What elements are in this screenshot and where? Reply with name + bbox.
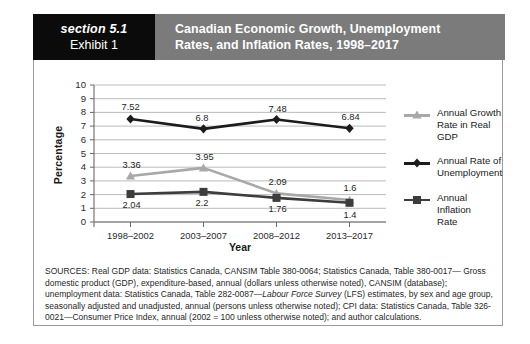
data-point-label: 7.48 <box>269 104 287 114</box>
data-point-label: 1.4 <box>344 210 357 220</box>
sources-line-1: SOURCES: Real GDP data: Statistics Canad… <box>45 266 461 276</box>
data-point-label: 6.84 <box>342 112 360 122</box>
legend-item: Annual Inflation Rate <box>404 192 502 227</box>
data-point-label: 6.8 <box>196 113 209 123</box>
data-point-label: 3.36 <box>123 160 141 170</box>
exhibit-title: Canadian Economic Growth, Unemployment R… <box>155 14 505 60</box>
legend-label: Annual Rate of Unemployment <box>437 155 502 179</box>
legend-triangle-icon <box>404 108 430 122</box>
legend-label: Annual Inflation Rate <box>437 192 502 227</box>
data-point-label: 2.04 <box>123 200 141 210</box>
chart: Percentage 109876543210 1998–20022003–20… <box>34 61 502 261</box>
legend-item: Annual Rate of Unemployment <box>404 155 502 179</box>
sources-line-3-italic: Labour Force Survey <box>262 289 341 299</box>
exhibit-figure: section 5.1 Exhibit 1 Canadian Economic … <box>0 0 530 344</box>
data-point-label: 2.2 <box>196 198 209 208</box>
exhibit-number: Exhibit 1 <box>70 37 118 54</box>
legend-item: Annual Growth Rate in Real GDP <box>404 107 502 142</box>
data-point-label: 1.6 <box>344 183 357 193</box>
data-point-label: 1.76 <box>269 204 287 214</box>
legend-diamond-icon <box>404 156 430 170</box>
sources-note: SOURCES: Real GDP data: Statistics Canad… <box>45 266 495 324</box>
section-block: section 5.1 Exhibit 1 <box>33 14 155 60</box>
section-number: section 5.1 <box>61 21 128 37</box>
data-point-label: 7.52 <box>122 102 140 112</box>
legend-label: Annual Growth Rate in Real GDP <box>437 107 502 142</box>
sources-line-3c: (LFS) estimates, by sex and age <box>342 289 467 299</box>
legend-square-icon <box>404 193 430 207</box>
exhibit-title-line-2: Rates, and Inflation Rates, 1998–2017 <box>175 37 505 54</box>
sources-line-3a: unemployment data: Statistics Canada, Ta… <box>45 289 262 299</box>
chart-legend: Annual Growth Rate in Real GDPAnnual Rat… <box>404 107 502 240</box>
exhibit-title-line-1: Canadian Economic Growth, Unemployment <box>175 21 505 38</box>
data-point-label: 2.09 <box>269 177 287 187</box>
data-point-label: 3.95 <box>196 152 214 162</box>
exhibit-header: section 5.1 Exhibit 1 Canadian Economic … <box>33 14 505 60</box>
